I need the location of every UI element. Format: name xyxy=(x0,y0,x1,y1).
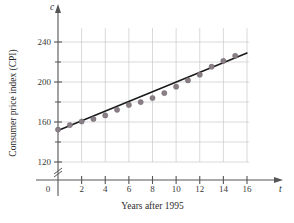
data-point xyxy=(55,127,60,132)
data-point xyxy=(67,123,72,128)
cpi-scatter-plot: 1201602002400246810121416 ctYears after … xyxy=(0,0,294,223)
data-point xyxy=(221,58,226,63)
y-tick-label: 200 xyxy=(38,77,52,87)
y-tick-label: 120 xyxy=(38,157,52,167)
x-tick-label: 16 xyxy=(243,184,253,194)
data-point xyxy=(91,116,96,121)
x-tick-label: 12 xyxy=(195,184,204,194)
y-axis xyxy=(54,4,62,196)
data-point xyxy=(114,107,119,112)
x-axis-variable-label: t xyxy=(279,184,282,194)
data-point xyxy=(126,102,131,107)
data-point xyxy=(185,78,190,83)
x-axis-arrowhead xyxy=(274,177,283,183)
x-axis-title: Years after 1995 xyxy=(121,201,184,211)
x-tick-label: 6 xyxy=(127,184,132,194)
chart-figure: 1201602002400246810121416 ctYears after … xyxy=(0,0,294,223)
data-point xyxy=(138,100,143,105)
y-axis-arrowhead xyxy=(55,4,61,13)
data-point xyxy=(174,84,179,89)
y-axis-title: Consumer price index (CPI) xyxy=(8,49,19,156)
x-tick-label: 8 xyxy=(150,184,155,194)
x-tick-label: 14 xyxy=(219,184,229,194)
data-point xyxy=(197,72,202,77)
data-point xyxy=(150,95,155,100)
x-axis xyxy=(36,176,283,184)
tick-labels: 1201602002400246810121416 xyxy=(38,37,253,194)
data-point xyxy=(162,91,167,96)
data-points xyxy=(55,53,237,132)
data-point xyxy=(233,53,238,58)
x-tick-label: 4 xyxy=(103,184,108,194)
x-tick-label: 2 xyxy=(79,184,84,194)
x-tick-label: 10 xyxy=(172,184,182,194)
y-tick-label: 160 xyxy=(38,117,52,127)
y-tick-label: 240 xyxy=(38,37,52,47)
y-axis-variable-label: c xyxy=(50,2,55,12)
data-point xyxy=(209,64,214,69)
data-point xyxy=(79,119,84,124)
grid-lines xyxy=(58,28,249,162)
plot-svg: 1201602002400246810121416 ctYears after … xyxy=(0,0,294,223)
data-point xyxy=(103,113,108,118)
x-tick-label: 0 xyxy=(46,184,51,194)
